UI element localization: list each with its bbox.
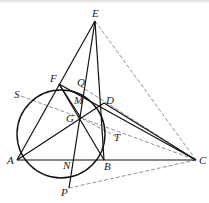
geometry-figure: EFQDSMGTANBCP <box>0 0 209 203</box>
point-label-S: S <box>14 88 20 100</box>
point-label-P: P <box>60 186 68 198</box>
circle <box>17 90 105 178</box>
segment-AD <box>17 103 104 160</box>
point-label-E: E <box>91 7 99 19</box>
point-label-D: D <box>105 94 114 106</box>
diagram-canvas: EFQDSMGTANBCP <box>0 0 209 203</box>
point-label-Q: Q <box>77 76 85 88</box>
dashed-line-PC <box>69 160 196 188</box>
point-label-A: A <box>6 154 14 166</box>
point-label-C: C <box>199 154 207 166</box>
point-label-N: N <box>62 159 71 171</box>
point-label-F: F <box>49 72 57 84</box>
dashed-line-EC <box>95 21 196 160</box>
point-label-T: T <box>114 131 121 143</box>
point-label-G: G <box>66 112 74 124</box>
segment-EA <box>17 21 95 160</box>
point-label-B: B <box>104 160 111 172</box>
point-label-M: M <box>73 94 84 106</box>
segment-EB <box>95 21 104 160</box>
